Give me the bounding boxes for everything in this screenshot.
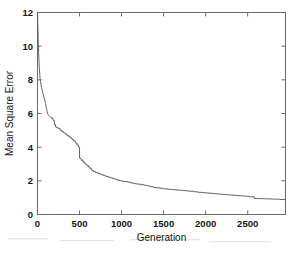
x-tick-label: 2000	[195, 218, 216, 229]
chart-svg: 05001000150020002500024681012 Mean Squar…	[0, 0, 295, 253]
y-tick-label: 8	[28, 74, 33, 85]
plot-area: 05001000150020002500024681012	[22, 7, 285, 229]
plot-frame	[38, 13, 286, 215]
chart-figure: 05001000150020002500024681012 Mean Squar…	[0, 0, 295, 253]
y-tick-label: 10	[22, 41, 33, 52]
x-tick-label: 1500	[153, 218, 174, 229]
data-line-mean-square-error	[38, 13, 286, 200]
x-tick-label: 0	[35, 218, 40, 229]
y-tick-label: 6	[28, 108, 33, 119]
x-axis-label: Generation	[137, 232, 186, 243]
y-tick-label: 12	[22, 7, 33, 18]
y-tick-label: 0	[28, 209, 33, 220]
x-tick-label: 1000	[111, 218, 132, 229]
y-axis-label: Mean Square Error	[4, 70, 15, 156]
x-tick-label: 2500	[237, 218, 258, 229]
y-tick-label: 2	[28, 175, 33, 186]
x-tick-label: 500	[72, 218, 88, 229]
y-tick-label: 4	[28, 142, 34, 153]
